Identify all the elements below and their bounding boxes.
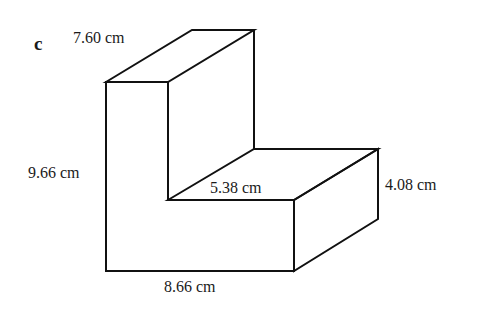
step-side-face — [294, 149, 378, 271]
l-shaped-prism-drawing — [0, 0, 479, 309]
diagram-canvas: c 7.60 cm 9.66 cm 5.38 cm 4.08 cm 8.66 c… — [0, 0, 479, 309]
step-top-face — [168, 149, 378, 200]
label-step-depth: 5.38 cm — [210, 180, 262, 196]
label-total-width: 8.66 cm — [164, 279, 216, 295]
label-step-height: 4.08 cm — [385, 177, 437, 193]
front-face — [106, 82, 294, 271]
label-top-depth: 7.60 cm — [73, 30, 125, 46]
part-label: c — [34, 34, 42, 53]
label-total-height: 9.66 cm — [28, 165, 80, 181]
upper-top-face — [106, 30, 254, 82]
